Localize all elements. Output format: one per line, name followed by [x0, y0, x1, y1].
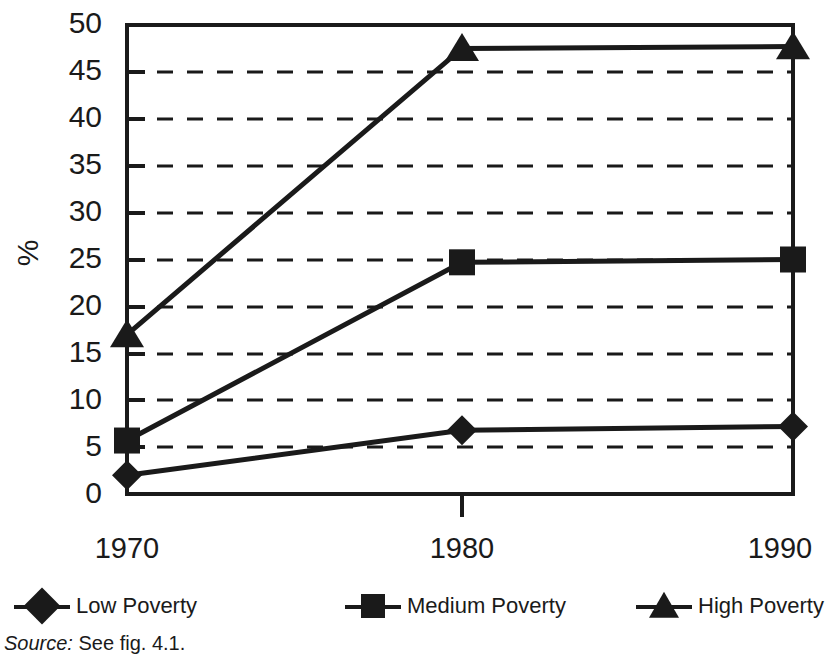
series-line	[127, 260, 793, 441]
source-note: Source: See fig. 4.1.	[4, 632, 185, 654]
series-low-poverty	[112, 411, 808, 490]
legend-item-high-poverty[interactable]: High Poverty	[636, 586, 824, 626]
triangle-shape	[649, 592, 679, 618]
legend-item-low-poverty[interactable]: Low Poverty	[14, 586, 197, 626]
series-line	[127, 47, 793, 335]
square-marker-icon	[345, 590, 401, 622]
square-marker	[114, 428, 140, 454]
figure-container: 50 45 40 35 30 25 20 15 10 5 0 %	[0, 0, 825, 657]
diamond-shape	[24, 588, 61, 625]
triangle-marker-icon	[636, 590, 692, 622]
legend-label: Medium Poverty	[407, 594, 566, 618]
square-shape	[361, 594, 385, 618]
diamond-marker-icon	[14, 590, 70, 622]
source-text: See fig. 4.1.	[79, 632, 186, 654]
legend-label: High Poverty	[698, 594, 824, 618]
series-high-poverty	[110, 31, 810, 347]
series-layer	[110, 31, 810, 490]
square-marker	[449, 249, 475, 275]
diamond-marker	[447, 415, 477, 445]
square-marker	[780, 247, 806, 273]
legend-item-medium-poverty[interactable]: Medium Poverty	[345, 586, 566, 626]
diamond-marker	[778, 411, 808, 441]
legend-label: Low Poverty	[76, 594, 197, 618]
x-tick-label-1970: 1970	[47, 532, 207, 564]
source-prefix: Source:	[4, 632, 73, 654]
x-tick-label-1990: 1990	[700, 532, 825, 564]
diamond-marker	[112, 460, 142, 490]
x-tick-label-1980: 1980	[382, 532, 542, 564]
chart-legend: Low Poverty Medium Poverty High Poverty	[0, 586, 825, 626]
y-axis-ticks	[127, 72, 145, 447]
